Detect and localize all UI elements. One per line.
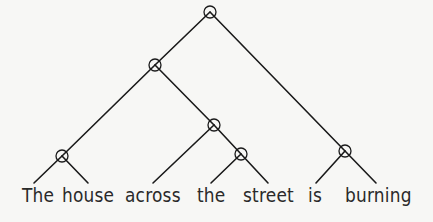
word-street: street [243, 184, 294, 206]
tree-edge [62, 65, 155, 156]
tree-edge [155, 65, 214, 125]
word-the: the [197, 184, 226, 206]
tree-edge [153, 125, 214, 183]
word-across: across [125, 184, 181, 206]
word-is: is [308, 184, 322, 206]
word-burning: burning [345, 184, 412, 206]
tree-edge [210, 12, 345, 151]
tree-edge [155, 12, 210, 65]
tree-edge [345, 151, 376, 183]
word-house: house [62, 184, 114, 206]
word-the: The [22, 184, 54, 206]
